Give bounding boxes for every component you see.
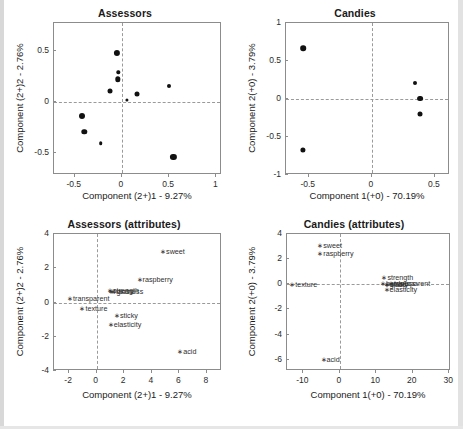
- plot-area[interactable]: ∗sweet∗raspberry∗strength∗hardness∗gloss…: [53, 233, 221, 370]
- y-tick: [53, 233, 56, 234]
- y-tick: [53, 267, 56, 268]
- x-tick-label: 0.5: [162, 179, 174, 189]
- x-tick: [123, 370, 124, 373]
- data-point[interactable]: [114, 50, 120, 56]
- x-tick: [434, 174, 435, 177]
- x-tick-label: 8: [203, 375, 208, 385]
- x-tick: [302, 370, 303, 373]
- y-tick-label: -2: [258, 303, 282, 313]
- y-tick-label: 1: [257, 17, 281, 27]
- attribute-label: ∗transparent: [67, 294, 109, 303]
- x-tick: [412, 370, 413, 373]
- data-point[interactable]: [300, 46, 306, 52]
- x-tick-label: 30: [443, 375, 452, 385]
- panel-assessors-scores: Assessors Component (2+)1 - 9.27% Compon…: [0, 0, 232, 211]
- y-axis-label: Component 2(+0) - 3.79%: [246, 233, 257, 370]
- data-point[interactable]: [413, 81, 417, 85]
- x-tick: [121, 174, 122, 177]
- reference-line-vertical: [122, 23, 123, 173]
- y-tick-label: 0.5: [25, 45, 49, 55]
- x-tick: [96, 370, 97, 373]
- plot-area[interactable]: ∗sweet∗raspberry∗strength∗hardness∗gloss…: [286, 233, 450, 370]
- panel-title: Assessors (attributes): [26, 218, 222, 230]
- data-point[interactable]: [417, 96, 423, 102]
- x-tick: [339, 370, 340, 373]
- reference-line-horizontal: [286, 99, 448, 100]
- x-axis-label: Component (2+)1 - 9.27%: [53, 389, 221, 400]
- y-tick: [53, 50, 56, 51]
- y-axis-label: Component (2+)2 - 2.76%: [14, 233, 25, 370]
- y-axis-label: Component 2(+0) - 3.79%: [246, 22, 257, 174]
- figure-page: Assessors Component (2+)1 - 9.27% Compon…: [0, 0, 463, 429]
- data-point[interactable]: [300, 148, 305, 153]
- plot-inner: [54, 23, 220, 173]
- x-tick-label: -0.5: [300, 179, 315, 189]
- y-axis-label: Component (2+)2 - 2.76%: [14, 22, 25, 174]
- x-tick-label: 1: [213, 179, 218, 189]
- data-point[interactable]: [81, 129, 86, 134]
- data-point[interactable]: [79, 113, 85, 119]
- y-tick-label: 0: [25, 96, 49, 106]
- y-tick: [286, 233, 289, 234]
- x-tick: [206, 370, 207, 373]
- panel-title: Assessors: [30, 7, 220, 19]
- plot-area[interactable]: [285, 22, 449, 174]
- x-tick: [168, 174, 169, 177]
- x-tick-label: 0: [368, 179, 373, 189]
- data-point[interactable]: [115, 77, 120, 82]
- y-tick-label: 2: [25, 262, 49, 272]
- data-point[interactable]: [167, 84, 171, 88]
- attribute-label: ∗acid: [321, 355, 340, 364]
- x-tick: [371, 174, 372, 177]
- y-tick: [286, 334, 289, 335]
- data-point[interactable]: [116, 70, 119, 73]
- y-tick-label: -0.5: [25, 147, 49, 157]
- y-tick-label: 4: [25, 228, 49, 238]
- x-tick: [375, 370, 376, 373]
- y-tick: [286, 283, 289, 284]
- y-tick-label: 0: [257, 93, 281, 103]
- attribute-label: ∗sticky: [114, 310, 138, 319]
- panel-title: Candies (attributes): [256, 218, 452, 230]
- attribute-label: ∗texture: [289, 280, 317, 289]
- x-axis-label: Component 1(+0) - 70.19%: [278, 389, 458, 400]
- data-point[interactable]: [126, 98, 129, 101]
- y-tick: [53, 336, 56, 337]
- attribute-label: ∗gloss: [110, 286, 133, 295]
- y-tick: [53, 302, 56, 303]
- y-tick: [53, 152, 56, 153]
- y-tick: [285, 174, 288, 175]
- y-tick-label: -6: [258, 354, 282, 364]
- panel-assessors-attributes: Assessors (attributes) ∗sweet∗raspberry∗…: [0, 211, 232, 429]
- data-point[interactable]: [99, 141, 103, 145]
- reference-line-vertical: [372, 23, 373, 173]
- x-tick-label: 0: [93, 375, 98, 385]
- plot-inner: ∗sweet∗raspberry∗strength∗hardness∗gloss…: [287, 234, 449, 369]
- x-tick-label: 20: [407, 375, 416, 385]
- y-tick-label: -4: [25, 365, 49, 375]
- panel-candies-scores: Candies Component 1(+0) - 70.19% Compone…: [232, 0, 463, 211]
- x-axis-label: Component (2+)1 - 9.27%: [53, 190, 221, 201]
- y-tick: [285, 60, 288, 61]
- y-tick: [53, 370, 56, 371]
- attribute-label: ∗texture: [79, 303, 107, 312]
- x-tick-label: 0: [119, 179, 124, 189]
- x-axis-label: Component 1(+0) - 70.19%: [277, 190, 457, 201]
- x-tick: [448, 370, 449, 373]
- data-point[interactable]: [134, 92, 139, 97]
- data-point[interactable]: [108, 89, 113, 94]
- x-tick: [308, 174, 309, 177]
- plot-area[interactable]: [53, 22, 221, 174]
- x-tick-label: -10: [296, 375, 308, 385]
- x-tick-label: 4: [148, 375, 153, 385]
- x-tick-label: 0.5: [428, 179, 440, 189]
- y-tick: [285, 136, 288, 137]
- x-tick-label: -2: [64, 375, 72, 385]
- reference-line-horizontal: [54, 102, 220, 103]
- data-point[interactable]: [418, 111, 423, 116]
- panel-title: Candies: [260, 7, 450, 19]
- x-tick: [215, 174, 216, 177]
- data-point[interactable]: [170, 154, 176, 160]
- plot-inner: ∗sweet∗raspberry∗strength∗hardness∗gloss…: [54, 234, 220, 369]
- panel-candies-attributes: Candies (attributes) ∗sweet∗raspberry∗st…: [232, 211, 463, 429]
